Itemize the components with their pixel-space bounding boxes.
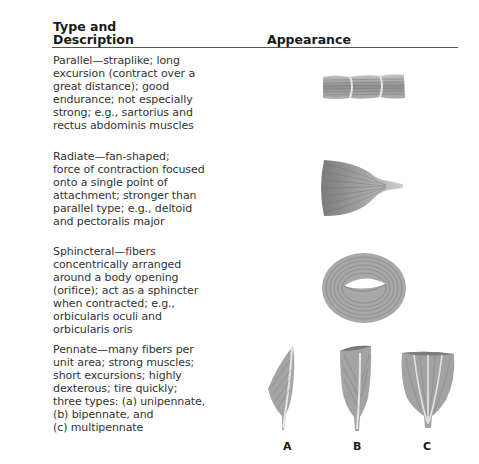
row-parallel-description: Parallel—straplike; long excursion (cont… xyxy=(53,54,243,132)
sphincteral-muscle-icon xyxy=(320,250,410,326)
radiate-muscle-icon xyxy=(318,158,408,220)
row-sphincteral-description: Sphincteral—fibers concentrically arrang… xyxy=(53,245,243,336)
header-appearance: Appearance xyxy=(267,33,351,46)
unipennate-muscle-icon xyxy=(264,344,300,434)
bipennate-muscle-icon xyxy=(338,343,374,433)
pennate-label-c: C xyxy=(423,440,431,453)
header-divider xyxy=(52,47,458,48)
pennate-label-b: B xyxy=(353,440,361,453)
multipennate-muscle-icon xyxy=(400,350,456,430)
row-pennate-description: Pennate—many fibers per unit area; stron… xyxy=(53,343,243,434)
pennate-label-a: A xyxy=(283,440,292,453)
header-type-description: Type and Description xyxy=(53,20,134,46)
row-radiate-description: Radiate—fan-shaped; force of contraction… xyxy=(53,150,243,228)
parallel-muscle-icon xyxy=(320,72,406,102)
